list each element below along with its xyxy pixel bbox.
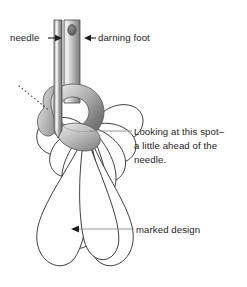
darning-foot-figure: needle darning foot Looking at this spot… [0, 0, 247, 287]
darning-foot-shank-hole [68, 25, 76, 36]
needle-label: needle [10, 32, 39, 43]
label-marked-design: marked design [136, 224, 200, 235]
looking-spot-line-2: a little ahead of the [134, 140, 217, 151]
figure-canvas: needle darning foot Looking at this spot… [0, 0, 247, 287]
darning-foot-label: darning foot [98, 32, 150, 43]
marked-design-label: marked design [136, 224, 200, 235]
looking-spot-line-3: needle. [134, 154, 166, 165]
looking-spot-line-1: Looking at this spot– [134, 126, 225, 137]
